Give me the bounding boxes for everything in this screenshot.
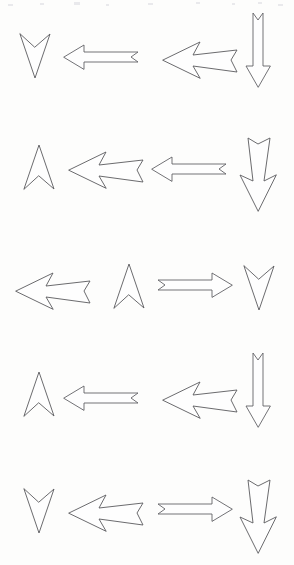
scan-artifacts bbox=[8, 2, 283, 6]
concave-arrowhead-up-icon[interactable] bbox=[24, 145, 54, 189]
thin-arrow-right-icon[interactable] bbox=[158, 273, 232, 297]
scan-speck bbox=[74, 2, 80, 5]
block-arrow-left-icon[interactable] bbox=[16, 273, 90, 309]
glyph-row-4 bbox=[24, 353, 270, 427]
vertical-block-arrow-down-icon[interactable] bbox=[240, 480, 276, 553]
glyph-row-3 bbox=[16, 264, 274, 310]
block-arrow-left-icon[interactable] bbox=[69, 495, 143, 531]
concave-arrowhead-down-icon[interactable] bbox=[24, 489, 54, 533]
block-arrow-left-icon[interactable] bbox=[163, 42, 237, 78]
concave-arrowhead-up-icon[interactable] bbox=[24, 372, 54, 416]
vertical-thin-arrow-down-icon[interactable] bbox=[246, 13, 270, 87]
vertical-block-arrow-down-icon[interactable] bbox=[240, 138, 276, 211]
block-arrow-left-icon[interactable] bbox=[69, 152, 143, 188]
scan-speck bbox=[232, 3, 235, 5]
scan-speck bbox=[148, 3, 153, 5]
scan-speck bbox=[196, 2, 200, 4]
thin-arrow-left-icon[interactable] bbox=[64, 386, 138, 410]
concave-arrowhead-down-icon[interactable] bbox=[20, 34, 50, 78]
scan-speck bbox=[8, 4, 13, 6]
block-arrow-left-icon[interactable] bbox=[163, 382, 237, 418]
arrow-glyph-sheet bbox=[0, 0, 294, 565]
glyph-row-2 bbox=[24, 138, 276, 211]
scan-speck bbox=[40, 3, 44, 5]
glyph-row-1 bbox=[20, 13, 270, 87]
thin-arrow-right-icon[interactable] bbox=[158, 497, 232, 521]
glyph-row-5 bbox=[24, 480, 276, 553]
scan-speck bbox=[278, 4, 283, 6]
glyph-canvas bbox=[0, 0, 294, 565]
vertical-thin-arrow-down-icon[interactable] bbox=[246, 353, 270, 427]
concave-arrowhead-up-icon[interactable] bbox=[114, 264, 144, 308]
concave-arrowhead-down-icon[interactable] bbox=[244, 266, 274, 310]
thin-arrow-left-icon[interactable] bbox=[64, 45, 138, 69]
scan-speck bbox=[258, 2, 262, 4]
thin-arrow-left-icon[interactable] bbox=[152, 157, 226, 181]
scan-speck bbox=[106, 4, 109, 6]
